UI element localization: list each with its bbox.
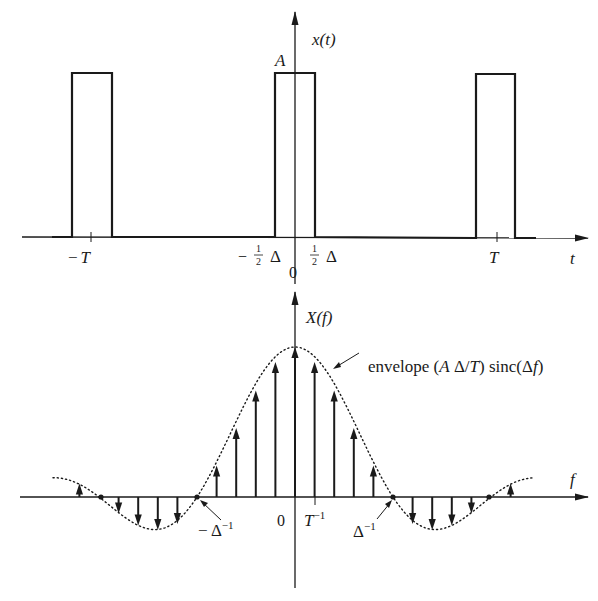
zero-dot-neg2 [98,494,103,499]
spectral-line [174,497,181,524]
spectral-line [154,497,161,530]
tick-label-pos-T: T [489,248,500,267]
xt-axis-label: x(t) [311,30,336,49]
amplitude-label: A [274,51,286,70]
spectral-line [291,347,298,497]
arrow-up-icon [350,428,357,439]
t-axis [22,237,588,238]
spectral-line [370,466,377,498]
origin-label-bottom: 0 [277,512,285,529]
arrow-up-icon [252,391,259,402]
time-domain-plot: x(t) t A 0 −T T − 1 2 Δ 1 2 Δ [22,12,588,284]
pulse-train [52,73,536,238]
arrow-down-icon [115,503,122,514]
origin-label-top: 0 [289,264,297,281]
tick-label-pos-half-delta: 1 2 Δ [310,243,337,267]
svg-text:1: 1 [256,243,261,254]
arrow-down-icon [429,519,436,530]
spectral-line [448,497,455,526]
zero-dot-pos1 [390,494,395,499]
tick-label-neg-inv-delta: − Δ−1 [198,519,234,540]
t-axis-label: t [570,249,576,268]
zero-dot-neg1 [194,494,199,499]
arrow-up-icon [331,391,338,402]
svg-text:Δ: Δ [270,247,281,266]
svg-text:2: 2 [312,256,317,267]
tick-label-neg-half-delta: − 1 2 Δ [238,243,281,267]
svg-text:1: 1 [312,243,317,254]
svg-text:−: − [238,248,247,265]
zero-dot-pos2 [486,494,491,499]
spectral-line [429,497,436,530]
spectral-line [233,428,240,497]
spectral-line [409,497,416,524]
tick-label-inv-T: T−1 [304,509,325,530]
tick-label-neg-T: −T [68,248,92,267]
spectral-line [350,428,357,497]
annotation-arrow-neg-inv-delta [200,500,221,520]
tick-label-pos-inv-delta: Δ−1 [353,520,376,541]
arrow-down-icon [448,515,455,526]
arrow-up-icon [291,347,298,358]
svg-text:2: 2 [256,256,261,267]
arrow-up-icon [311,362,318,373]
spectral-line [311,362,318,497]
Xf-axis-label: X(f) [305,308,333,327]
spectral-line [135,497,142,526]
envelope-annotation: envelope (A Δ/T) sinc(Δf) [368,357,543,376]
frequency-domain-plot: X(f) f envelope (A Δ/T) sinc(Δf) 0 T−1 −… [20,292,588,588]
spectral-line [213,466,220,498]
f-axis-label: f [570,470,577,489]
annotation-arrow-pos-inv-delta [377,500,392,519]
arrow-down-icon [468,503,475,514]
arrow-up-icon [272,362,279,373]
spectral-line [272,362,279,497]
spectral-line [252,391,259,498]
svg-text:Δ: Δ [326,247,337,266]
arrow-up-icon [233,428,240,439]
spectral-line [331,391,338,498]
annotation-arrow-envelope [333,353,359,369]
figure-canvas: x(t) t A 0 −T T − 1 2 Δ 1 2 Δ [0,0,598,601]
